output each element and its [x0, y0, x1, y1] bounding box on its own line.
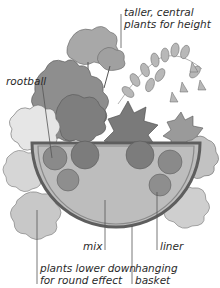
label-line: basket: [135, 274, 178, 286]
label-line: hanging: [135, 262, 178, 274]
label-mix: mix: [83, 240, 102, 252]
illustration: [0, 0, 220, 288]
label-line: for round effect: [40, 274, 136, 286]
label-plants-lower-down: plants lower down for round effect: [40, 262, 136, 286]
label-line: taller, central: [124, 6, 211, 18]
label-line: plants lower down: [40, 262, 136, 274]
hanging-basket-diagram: taller, central plants for height rootba…: [0, 0, 220, 288]
label-rootball: rootball: [6, 75, 46, 87]
trailing-vine-plant: [118, 42, 206, 104]
label-liner: liner: [160, 240, 183, 252]
label-taller-central-plants: taller, central plants for height: [124, 6, 211, 30]
label-hanging-basket: hanging basket: [135, 262, 178, 286]
label-line: plants for height: [124, 18, 211, 30]
